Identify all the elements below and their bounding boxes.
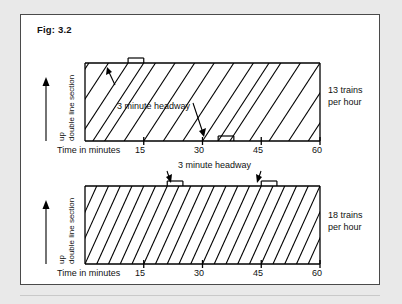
chart-top-ylabel-up: up [57,132,66,141]
chart-top-headway-note: 3 minute headway [117,101,190,111]
train-path-line [250,63,301,141]
chart-bottom-headway-note: 3 minute headway [178,160,251,170]
chart-bottom-xtick-60: 60 [305,268,329,278]
chart-top-ylabel-section: double line section [67,75,76,141]
chart-bottom-ylabel-up: up [57,255,66,264]
train-path-line [203,63,254,141]
headway-bracket [261,181,277,186]
chart-top-capacity-line2: per hour [328,97,363,109]
chart-bottom-capacity-line1: 18 trains [328,210,363,222]
chart-bottom-xlabel: Time in minutes [57,268,120,278]
figure-page: Fig: 3.2 [0,0,402,304]
chart-bottom-xtick-45: 45 [246,268,270,278]
chart-top-capacity-line1: 13 trains [328,85,363,97]
train-path-line [269,63,320,141]
chart-bottom-xtick-15: 15 [128,268,152,278]
page-divider-rule [20,295,380,296]
chart-bottom-capacity-label: 18 trains per hour [328,210,363,233]
headway-bracket [128,58,144,63]
chart-bottom-capacity-line2: per hour [328,222,363,234]
chart-top-xtick-15: 15 [128,145,152,155]
chart-bottom-ylabel-section: double line section [67,198,76,264]
figure-title: Fig: 3.2 [37,24,72,35]
chart-top-capacity-label: 13 trains per hour [328,85,363,108]
chart-top-xlabel: Time in minutes [57,145,120,155]
train-path-line [230,63,281,141]
chart-bottom-xtick-30: 30 [187,268,211,278]
chart-top-xtick-60: 60 [305,145,329,155]
chart-top-xtick-30: 30 [187,145,211,155]
chart-top-xtick-45: 45 [246,145,270,155]
headway-bracket [167,181,183,186]
figure-card: Fig: 3.2 [20,14,380,285]
